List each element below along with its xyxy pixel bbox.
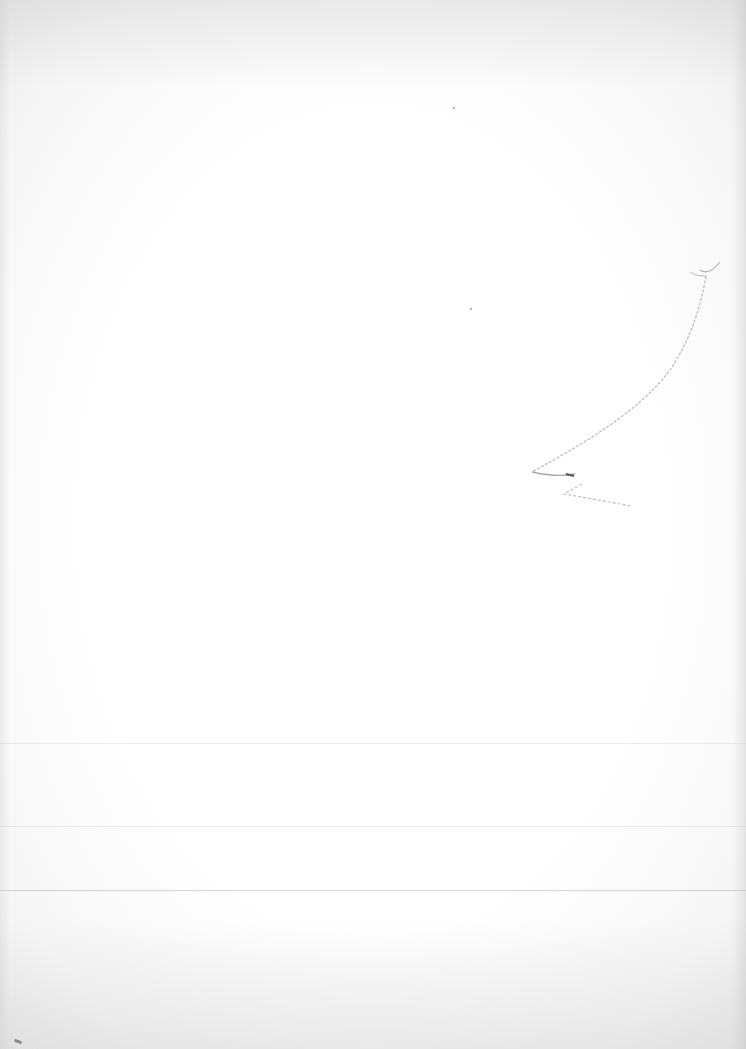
scan-shadow-bottom xyxy=(0,919,746,1049)
paper-speck xyxy=(470,308,472,310)
scan-shadow-left xyxy=(0,0,10,1049)
faint-rule-line xyxy=(0,743,746,744)
rule-line xyxy=(0,890,746,891)
scan-shadow-top xyxy=(0,0,746,90)
scanned-page xyxy=(0,0,746,1049)
pencil-stroke-icon xyxy=(520,250,746,510)
faint-rule-line xyxy=(0,826,746,827)
paper-speck xyxy=(453,107,455,109)
scan-shadow-right xyxy=(732,0,746,1049)
